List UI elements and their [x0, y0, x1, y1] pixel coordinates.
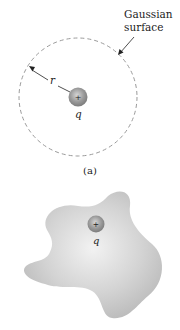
gauss-law-diagram: Gaussian surface r + q (a) + q [0, 0, 180, 330]
radius-line-b [32, 70, 48, 80]
charge-sign-b: + [93, 220, 99, 229]
figure-a: Gaussian surface r + q (a) [19, 8, 173, 176]
gaussian-label-line2: surface [124, 21, 163, 33]
radius-arrowhead-icon [29, 66, 35, 72]
radius-label: r [50, 74, 56, 86]
figure-a-caption: (a) [83, 165, 97, 176]
gaussian-pointer-line [120, 37, 134, 53]
radius-line-a [58, 86, 70, 92]
gaussian-label-line1: Gaussian [124, 8, 173, 20]
irregular-gaussian-surface [24, 191, 162, 318]
charge-label-b: q [93, 235, 99, 246]
figure-b: + q [24, 191, 162, 318]
charge-sign-a: + [75, 93, 82, 102]
charge-label-a: q [75, 108, 82, 120]
